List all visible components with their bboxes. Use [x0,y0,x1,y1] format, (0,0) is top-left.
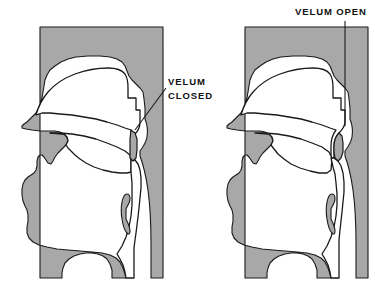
anatomical-figure: VELUM CLOSED VELUM OPEN [0,0,375,293]
velum-diagram-svg: VELUM CLOSED VELUM OPEN [0,0,375,293]
velum-closed-label-line1: VELUM [168,76,206,87]
velum-open-shape [334,133,343,161]
velum-closed-shape [130,130,137,161]
velum-closed-label-line2: CLOSED [168,90,213,101]
velum-open-label: VELUM OPEN [295,6,367,17]
